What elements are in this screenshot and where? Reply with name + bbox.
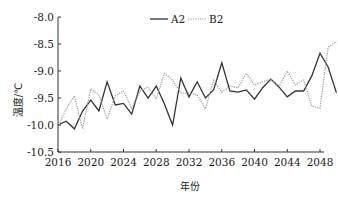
x-tick-label: 2036 (208, 156, 235, 168)
x-axis: 201620202024202820322036204020442048 (45, 149, 334, 168)
temperature-line-chart: -10.5-10.0-9.5-9.0-8.5-8.0 2016202020242… (0, 0, 338, 198)
y-tick-label: -9.0 (34, 65, 54, 77)
x-tick-label: 2032 (176, 156, 203, 168)
x-tick-label: 2020 (77, 156, 104, 168)
x-tick-label: 2048 (307, 156, 334, 168)
series-a2-line (58, 53, 336, 129)
y-axis: -10.5-10.0-9.5-9.0-8.5-8.0 (27, 11, 61, 158)
y-tick-label: -8.0 (34, 11, 54, 23)
legend-label-b2: B2 (209, 13, 223, 25)
y-axis-title: 温度/℃ (12, 83, 24, 118)
x-tick-label: 2040 (241, 156, 268, 168)
series-b2-line (58, 41, 336, 129)
x-tick-label: 2044 (274, 156, 301, 168)
legend: A2 B2 (150, 13, 223, 25)
legend-label-a2: A2 (170, 13, 185, 25)
x-axis-title: 年份 (180, 180, 200, 192)
y-tick-label: -9.5 (34, 92, 54, 104)
x-tick-label: 2024 (110, 156, 137, 168)
series-layer (58, 41, 336, 129)
y-tick-label: -10.0 (27, 119, 54, 131)
x-tick-label: 2016 (45, 156, 72, 168)
x-tick-label: 2028 (143, 156, 170, 168)
y-tick-label: -8.5 (34, 38, 54, 50)
